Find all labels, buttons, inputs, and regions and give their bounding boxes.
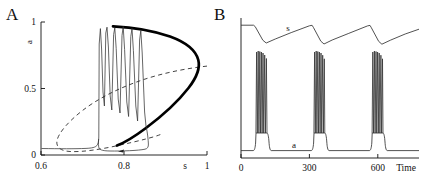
panel-a-plot: 1 0.5 0 0.6 0.8 1 s bbox=[0, 0, 214, 180]
panel-b-trace-s bbox=[241, 25, 419, 44]
panel-a-yticklabel-0.5: 0.5 bbox=[24, 84, 36, 94]
panel-b-plot: 0 300 600 Time s a bbox=[214, 0, 428, 180]
panel-a: A a 1 0.5 0 0.6 0.8 1 s bbox=[0, 0, 214, 180]
panel-b-x-axis-name: Time bbox=[396, 163, 416, 173]
panel-b-xticklabel-300: 300 bbox=[302, 163, 317, 173]
panel-b-trace-label-a: a bbox=[292, 140, 296, 150]
panel-a-trajectory-silent-branch bbox=[42, 137, 99, 149]
panel-b-burst-2-spikes bbox=[314, 51, 325, 133]
panel-b-burst-3-spikes bbox=[372, 51, 383, 133]
panel-a-xticklabel-0.8: 0.8 bbox=[118, 161, 130, 171]
panel-a-xticklabel-1: 1 bbox=[205, 161, 210, 171]
panel-b-burst-1-spikes bbox=[256, 51, 267, 133]
panel-a-yticklabel-1: 1 bbox=[31, 17, 36, 27]
panel-a-xticklabel-0.6: 0.6 bbox=[35, 161, 47, 171]
figure-container: A a 1 0.5 0 0.6 0.8 1 s bbox=[0, 0, 428, 180]
panel-a-yticklabel-0: 0 bbox=[31, 150, 36, 160]
panel-b-trace-a-envelope bbox=[241, 133, 419, 151]
panel-b: B 0 300 600 Time s a bbox=[214, 0, 428, 180]
panel-b-xticklabel-600: 600 bbox=[371, 163, 386, 173]
panel-a-x-axis-name: s bbox=[183, 161, 187, 171]
panel-b-trace-label-s: s bbox=[286, 23, 290, 33]
panel-b-xticklabel-0: 0 bbox=[239, 163, 244, 173]
panel-a-trajectory-downstroke bbox=[98, 126, 148, 151]
panel-a-trajectory-spikes bbox=[99, 27, 146, 126]
